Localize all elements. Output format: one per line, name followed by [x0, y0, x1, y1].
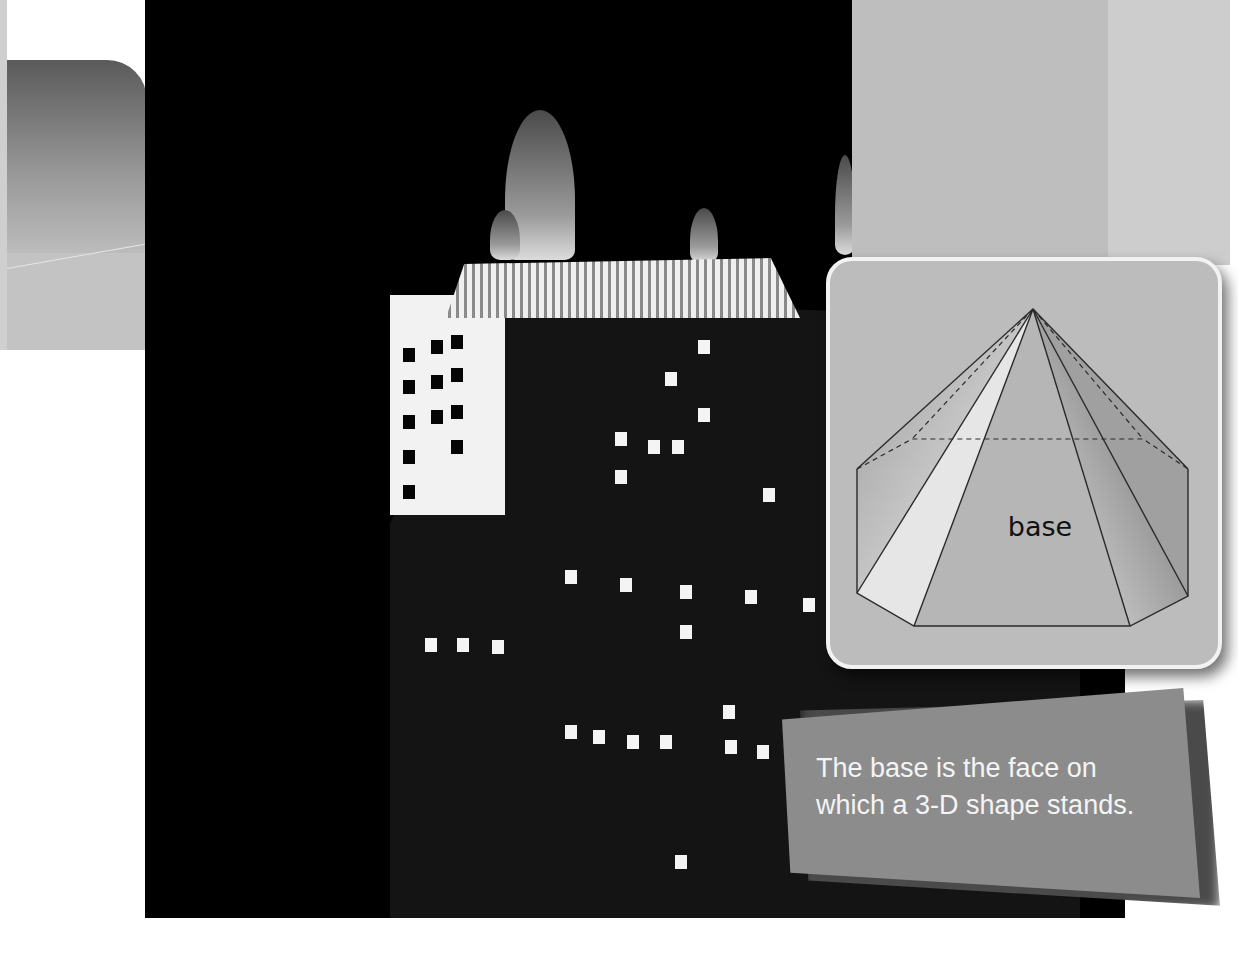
pyramid-diagram	[830, 261, 1226, 673]
pyramid-figure-card: base	[826, 257, 1222, 669]
spire-glow-right	[690, 208, 718, 263]
caption-line-2: which a 3-D shape stands.	[816, 787, 1186, 824]
base-label: base	[990, 511, 1090, 542]
caption-line-1: The base is the face on	[816, 750, 1186, 787]
left-edge-strip	[0, 0, 7, 350]
left-gray-block	[7, 253, 147, 350]
right-gray-panel	[852, 0, 1108, 265]
building-crown	[435, 258, 800, 318]
building-lit-corner	[390, 295, 505, 515]
left-gradient-shape	[7, 60, 147, 255]
caption-text: The base is the face on which a 3-D shap…	[816, 750, 1186, 824]
right-light-panel	[1108, 0, 1230, 265]
caption-card: The base is the face on which a 3-D shap…	[782, 688, 1200, 898]
